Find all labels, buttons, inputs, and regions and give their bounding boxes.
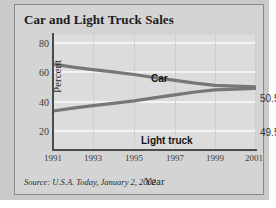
series-label-car: Car [151,73,168,84]
x-tick-1999: 1999 [206,153,224,163]
x-tick-1995: 1995 [125,153,143,163]
y-tick-80: 80 [39,38,49,49]
y-tick-40: 40 [39,97,49,108]
end-value-car: 50.5% [260,93,276,104]
x-tick-1997: 1997 [166,153,184,163]
x-axis-line [52,149,257,151]
plot-area: Car Light truck [53,35,256,149]
plot-wrapper: Car Light truck 80 60 40 20 1991 1993 19… [53,35,256,153]
figure-card: Car and Light Truck Sales [14,4,264,195]
series-line-light-truck [53,88,255,111]
series-label-light-truck: Light truck [141,135,193,146]
chart-title: Car and Light Truck Sales [24,12,174,28]
x-tick-1993: 1993 [84,153,102,163]
y-tick-20: 20 [39,126,49,137]
x-tick-1991: 1991 [44,153,62,163]
y-tick-60: 60 [39,67,49,78]
chart-screenshot: Car and Light Truck Sales [0,0,276,208]
series-plot [53,35,256,149]
x-tick-2001: 2001 [245,153,263,163]
y-axis-label: Percent [51,60,63,93]
source-note: Source: U.S.A. Today, January 2, 2002 [24,177,156,187]
end-value-light-truck: 49.5% [260,127,276,138]
